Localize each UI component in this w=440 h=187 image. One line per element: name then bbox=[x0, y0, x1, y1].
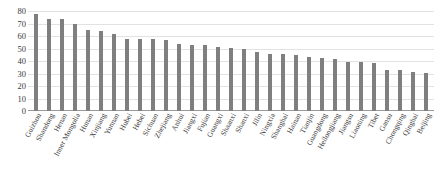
y-axis-tick-label: 70 bbox=[18, 19, 27, 28]
x-label-slot: Shanxi bbox=[238, 112, 251, 187]
bar[interactable] bbox=[99, 31, 103, 111]
bar-slot bbox=[82, 11, 95, 111]
bar-slot bbox=[173, 11, 186, 111]
x-axis-category-label: Hubei bbox=[119, 112, 134, 132]
bar-slot bbox=[30, 11, 43, 111]
plot-wrapper: 01020304050607080 GuizhouShandongHenanIn… bbox=[0, 0, 440, 187]
bar[interactable] bbox=[255, 52, 259, 111]
x-label-slot: Gansu bbox=[380, 112, 393, 187]
bar[interactable] bbox=[125, 39, 129, 112]
bar-slot bbox=[121, 11, 134, 111]
bar[interactable] bbox=[242, 49, 246, 111]
bar[interactable] bbox=[138, 39, 142, 111]
bar[interactable] bbox=[60, 19, 64, 111]
y-axis: 01020304050607080 bbox=[4, 11, 26, 111]
bar-chart: 01020304050607080 GuizhouShandongHenanIn… bbox=[0, 0, 440, 187]
y-axis-tick-label: 10 bbox=[18, 94, 27, 103]
bar[interactable] bbox=[346, 62, 350, 111]
bar[interactable] bbox=[268, 54, 272, 112]
bar-slot bbox=[134, 11, 147, 111]
y-axis-tick-label: 60 bbox=[18, 32, 27, 41]
x-label-slot: Tibet bbox=[367, 112, 380, 187]
y-axis-tick-label: 0 bbox=[22, 107, 26, 116]
bar-slot bbox=[199, 11, 212, 111]
bar-slot bbox=[328, 11, 341, 111]
bar[interactable] bbox=[424, 73, 428, 111]
y-axis-tick-label: 80 bbox=[18, 7, 27, 16]
bar[interactable] bbox=[216, 47, 220, 111]
bar-slot bbox=[238, 11, 251, 111]
bar-slot bbox=[69, 11, 82, 111]
bar-slot bbox=[186, 11, 199, 111]
bar-slot bbox=[341, 11, 354, 111]
bar[interactable] bbox=[398, 70, 402, 111]
bar-slot bbox=[212, 11, 225, 111]
x-label-slot: Qinghai bbox=[406, 112, 419, 187]
bar[interactable] bbox=[359, 62, 363, 111]
bar[interactable] bbox=[281, 54, 285, 111]
bar-slot bbox=[95, 11, 108, 111]
x-label-slot: Heilongjiang bbox=[328, 112, 341, 187]
x-label-slot: Chongqing bbox=[393, 112, 406, 187]
x-axis-labels: GuizhouShandongHenanInner MongoliaHunanX… bbox=[28, 112, 434, 187]
bar[interactable] bbox=[177, 44, 181, 111]
bar[interactable] bbox=[190, 45, 194, 111]
bar[interactable] bbox=[333, 59, 337, 112]
bar-slot bbox=[225, 11, 238, 111]
bar-slot bbox=[289, 11, 302, 111]
bar-slot bbox=[419, 11, 432, 111]
bar-slot bbox=[315, 11, 328, 111]
y-axis-tick-label: 30 bbox=[18, 69, 27, 78]
bar-slot bbox=[367, 11, 380, 111]
bar[interactable] bbox=[151, 39, 155, 111]
bar-series bbox=[28, 11, 434, 111]
x-label-slot: Beijing bbox=[419, 112, 432, 187]
y-axis-tick-label: 40 bbox=[18, 57, 27, 66]
plot-area bbox=[28, 11, 434, 111]
bar-slot bbox=[56, 11, 69, 111]
bar-slot bbox=[160, 11, 173, 111]
bar[interactable] bbox=[34, 14, 38, 112]
bar-slot bbox=[43, 11, 56, 111]
bar-slot bbox=[147, 11, 160, 111]
bar-slot bbox=[380, 11, 393, 111]
y-axis-tick-label: 20 bbox=[18, 82, 27, 91]
bar[interactable] bbox=[229, 48, 233, 111]
x-label-slot: Liaoning bbox=[354, 112, 367, 187]
bar[interactable] bbox=[411, 72, 415, 111]
bar[interactable] bbox=[294, 55, 298, 111]
bar[interactable] bbox=[372, 63, 376, 111]
bar[interactable] bbox=[320, 58, 324, 111]
bar-slot bbox=[108, 11, 121, 111]
bar[interactable] bbox=[112, 34, 116, 111]
bar[interactable] bbox=[164, 40, 168, 111]
bar[interactable] bbox=[203, 45, 207, 111]
bar[interactable] bbox=[307, 57, 311, 111]
bar-slot bbox=[302, 11, 315, 111]
bar-slot bbox=[354, 11, 367, 111]
bar-slot bbox=[406, 11, 419, 111]
bar[interactable] bbox=[86, 30, 90, 111]
bar-slot bbox=[250, 11, 263, 111]
x-label-slot: Jiangsu bbox=[341, 112, 354, 187]
x-axis-category-label: Shanxi bbox=[234, 112, 251, 134]
bar-slot bbox=[393, 11, 406, 111]
bar-slot bbox=[276, 11, 289, 111]
bar[interactable] bbox=[385, 70, 389, 111]
bar-slot bbox=[263, 11, 276, 111]
y-axis-tick-label: 50 bbox=[18, 44, 27, 53]
bar[interactable] bbox=[73, 24, 77, 111]
bar[interactable] bbox=[47, 19, 51, 112]
